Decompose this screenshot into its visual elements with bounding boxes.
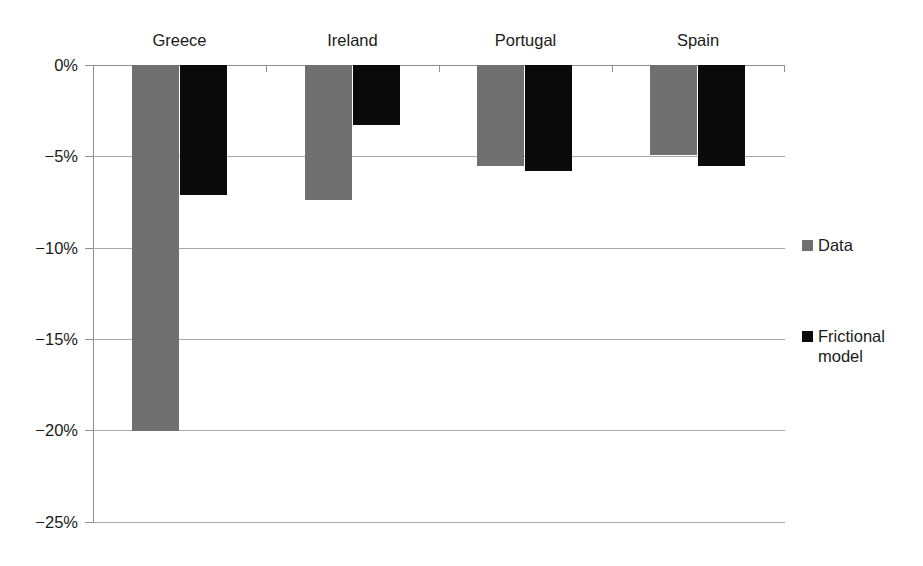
y-tick-label-3: −15% [18,331,78,348]
bar-ireland-data [305,65,352,200]
y-tick-label-2: −10% [18,240,78,257]
gridline-m10 [93,248,785,249]
y-tick-label-0: 0% [18,57,78,74]
y-tick-mark-1 [85,156,93,157]
plot-area [93,65,785,522]
legend-label-frictional-model: Frictional model [818,327,914,366]
y-tick-label-4: −20% [18,422,78,439]
category-label-ireland: Ireland [266,31,439,49]
legend-entry-data: Data [802,236,853,256]
y-tick-label-1: −5% [18,148,78,165]
bar-chart-figure: 0% −5% −10% −15% −20% −25% [0,0,923,566]
gridline-m15 [93,339,785,340]
category-label-portugal: Portugal [439,31,612,49]
y-tick-mark-0 [85,65,93,66]
bar-spain-data [650,65,697,155]
legend-swatch-icon-data [802,240,813,251]
y-tick-mark-4 [85,430,93,431]
category-label-greece: Greece [93,31,266,49]
category-label-spain: Spain [612,31,784,49]
y-tick-label-5: −25% [18,514,78,531]
legend-entry-frictional-model: Frictional model [802,327,914,366]
gridline-m25 [93,522,785,523]
bar-ireland-model [353,65,400,125]
bar-greece-model [180,65,227,195]
bar-portugal-model [525,65,572,171]
bar-portugal-data [477,65,524,166]
y-tick-mark-5 [85,522,93,523]
legend-label-data: Data [818,236,853,256]
y-tick-mark-3 [85,339,93,340]
legend-swatch-icon-frictional-model [802,331,813,342]
bar-greece-data [132,65,179,431]
bar-spain-model [698,65,745,166]
gridline-m20 [93,430,785,431]
y-tick-mark-2 [85,248,93,249]
